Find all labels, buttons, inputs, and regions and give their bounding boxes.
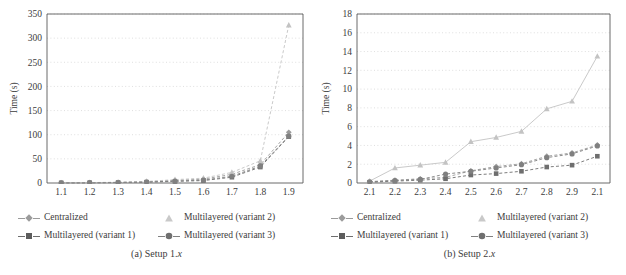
legend-label: Multilayered (variant 1) [44, 231, 135, 241]
circle-marker [443, 171, 448, 176]
square-marker-icon [331, 230, 353, 242]
circle-marker [468, 169, 473, 174]
legend-item-variant-2: Multilayered (variant 2) [471, 212, 616, 224]
x-tick-label: 1.5 [169, 187, 181, 197]
y-tick-label: 18 [343, 9, 353, 19]
x-tick-label: 1.7 [226, 187, 238, 197]
caption-text: Setup 2. [458, 248, 491, 259]
x-tick-label: 2.3 [414, 187, 426, 197]
diamond-marker-icon [331, 212, 353, 224]
panel-setup-2x: 0246810121416182.12.22.32.42.52.62.72.82… [313, 0, 626, 275]
y-tick-label: 6 [347, 122, 352, 132]
x-tick-label: 2.6 [490, 187, 502, 197]
caption-prefix: (a) [131, 248, 142, 259]
x-tick-label: 2.4 [440, 187, 452, 197]
circle-marker [116, 180, 121, 185]
y-axis-title: Time (s) [9, 82, 20, 114]
square-marker-icon [18, 230, 40, 242]
circle-marker [59, 180, 64, 185]
circle-marker [392, 178, 397, 183]
legend-label: Centralized [44, 213, 88, 223]
legend-item-variant-3: Multilayered (variant 3) [471, 230, 616, 242]
x-tick-label: 1.2 [84, 187, 96, 197]
legend-label: Multilayered (variant 2) [497, 213, 588, 223]
x-tick-label: 1.3 [112, 187, 124, 197]
y-tick-label: 10 [343, 84, 353, 94]
circle-marker-icon [471, 230, 493, 242]
x-tick-label: 1.9 [283, 187, 295, 197]
circle-marker [258, 164, 263, 169]
circle-marker [519, 162, 524, 167]
legend-item-variant-1: Multilayered (variant 1) [331, 230, 471, 242]
panel-setup-1x: 0501001502002503003501.11.21.31.41.51.61… [0, 0, 313, 275]
legend-label: Multilayered (variant 3) [497, 231, 588, 241]
square-marker [544, 165, 549, 170]
circle-marker [201, 178, 206, 183]
triangle-marker-icon [471, 212, 493, 224]
y-tick-label: 4 [347, 141, 352, 151]
y-tick-label: 250 [28, 58, 43, 68]
x-tick-label: 1.6 [198, 187, 210, 197]
y-axis-title: Time (s) [321, 82, 332, 114]
y-tick-label: 8 [347, 103, 352, 113]
legend-a: Centralized Multilayered (variant 2) Mul… [0, 205, 313, 275]
circle-marker [144, 179, 149, 184]
caption-italic: x [491, 248, 495, 259]
square-marker [595, 154, 600, 159]
caption-a: (a) Setup 1.x [0, 248, 313, 259]
legend-item-variant-2: Multilayered (variant 2) [158, 212, 303, 224]
x-tick-label: 2.5 [465, 187, 477, 197]
legend-label: Centralized [357, 213, 401, 223]
x-tick-label: 2.2 [389, 187, 401, 197]
y-axis-ticks: 050100150200250300350 [28, 9, 43, 188]
chart-svg-a: 0501001502002503003501.11.21.31.41.51.61… [0, 0, 313, 205]
legend-item-variant-1: Multilayered (variant 1) [18, 230, 158, 242]
y-tick-label: 0 [37, 178, 42, 188]
plot-area-b: 0246810121416182.12.22.32.42.52.62.72.82… [313, 0, 626, 205]
triangle-marker-icon [158, 212, 180, 224]
x-tick-label: 2.7 [516, 187, 528, 197]
circle-marker [544, 155, 549, 160]
y-axis-ticks: 024681012141618 [343, 9, 353, 188]
y-tick-label: 14 [343, 47, 353, 57]
y-tick-label: 12 [343, 66, 353, 76]
x-tick-label: 1.8 [254, 187, 266, 197]
circle-marker [418, 177, 423, 182]
plot-background [47, 14, 303, 183]
square-marker [519, 169, 524, 174]
legend-label: Multilayered (variant 2) [184, 213, 275, 223]
circle-marker [87, 180, 92, 185]
y-tick-label: 50 [33, 154, 43, 164]
caption-b: (b) Setup 2.x [313, 248, 626, 259]
y-tick-label: 300 [28, 33, 43, 43]
y-tick-label: 350 [28, 9, 43, 19]
plot-area-a: 0501001502002503003501.11.21.31.41.51.61… [0, 0, 313, 205]
circle-marker [286, 134, 291, 139]
x-tick-label: 2.1 [591, 187, 603, 197]
legend-item-centralized: Centralized [331, 212, 471, 224]
figure-container: 0501001502002503003501.11.21.31.41.51.61… [0, 0, 626, 275]
chart-svg-b: 0246810121416182.12.22.32.42.52.62.72.82… [313, 0, 626, 205]
caption-text: Setup 1. [145, 248, 178, 259]
legend-item-variant-3: Multilayered (variant 3) [158, 230, 303, 242]
square-marker [494, 171, 499, 176]
circle-marker [229, 174, 234, 179]
circle-marker [172, 178, 177, 183]
x-tick-label: 1.4 [141, 187, 153, 197]
y-tick-label: 100 [28, 130, 43, 140]
square-marker [570, 163, 575, 168]
circle-marker [569, 151, 574, 156]
x-tick-label: 1.1 [55, 187, 67, 197]
circle-marker [595, 143, 600, 148]
x-tick-label: 2.9 [566, 187, 578, 197]
x-axis-ticks: 1.11.21.31.41.51.61.71.81.9 [55, 187, 295, 197]
diamond-marker-icon [18, 212, 40, 224]
circle-marker [494, 165, 499, 170]
y-tick-label: 16 [343, 28, 353, 38]
y-tick-label: 200 [28, 82, 43, 92]
x-tick-label: 2.8 [541, 187, 553, 197]
circle-marker [367, 179, 372, 184]
caption-prefix: (b) [444, 248, 456, 259]
x-tick-label: 2.1 [364, 187, 376, 197]
legend-b: Centralized Multilayered (variant 2) Mul… [313, 205, 626, 275]
